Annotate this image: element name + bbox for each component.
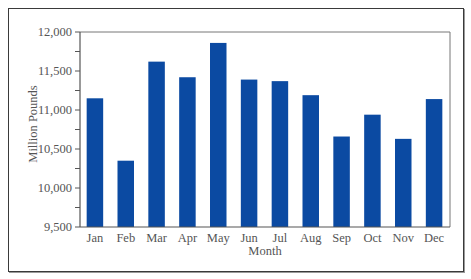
x-tick-label: Aug	[300, 231, 322, 245]
bar-jul	[272, 81, 289, 227]
bar-chart: 9,50010,00010,50011,00011,50012,000 JanF…	[0, 0, 471, 279]
y-tick-label: 11,500	[38, 64, 72, 78]
bars	[87, 43, 443, 227]
x-axis-labels: JanFebMarAprMayJunJulAugSepOctNovDec	[87, 231, 445, 245]
y-axis-title: Million Pounds	[26, 85, 40, 163]
x-tick-label: Nov	[392, 231, 414, 245]
x-tick-label: Oct	[363, 231, 382, 245]
bar-may	[210, 43, 227, 227]
y-tick-label: 9,500	[44, 220, 72, 234]
bar-mar	[148, 62, 165, 227]
bar-feb	[118, 161, 135, 227]
x-tick-label: May	[207, 231, 231, 245]
x-tick-label: Mar	[146, 231, 168, 245]
x-tick-label: Sep	[332, 231, 351, 245]
y-tick-label: 10,000	[38, 181, 72, 195]
bar-nov	[395, 139, 412, 227]
bar-jan	[87, 98, 104, 227]
bar-oct	[364, 115, 381, 227]
bar-aug	[303, 95, 320, 227]
y-tick-label: 11,000	[38, 103, 72, 117]
bar-jun	[241, 80, 257, 227]
bar-apr	[179, 77, 196, 227]
x-tick-label: Jan	[87, 231, 104, 245]
x-tick-label: Jul	[273, 231, 288, 245]
y-tick-label: 12,000	[38, 25, 72, 39]
y-axis-ticks: 9,50010,00010,50011,00011,50012,000	[38, 25, 80, 234]
y-tick-label: 10,500	[38, 142, 72, 156]
x-tick-label: Feb	[116, 231, 135, 245]
bar-dec	[426, 99, 443, 227]
x-tick-label: Jun	[240, 231, 258, 245]
x-tick-label: Apr	[178, 231, 198, 245]
x-tick-label: Dec	[424, 231, 445, 245]
bar-sep	[333, 137, 350, 227]
x-axis-title: Month	[248, 244, 282, 258]
